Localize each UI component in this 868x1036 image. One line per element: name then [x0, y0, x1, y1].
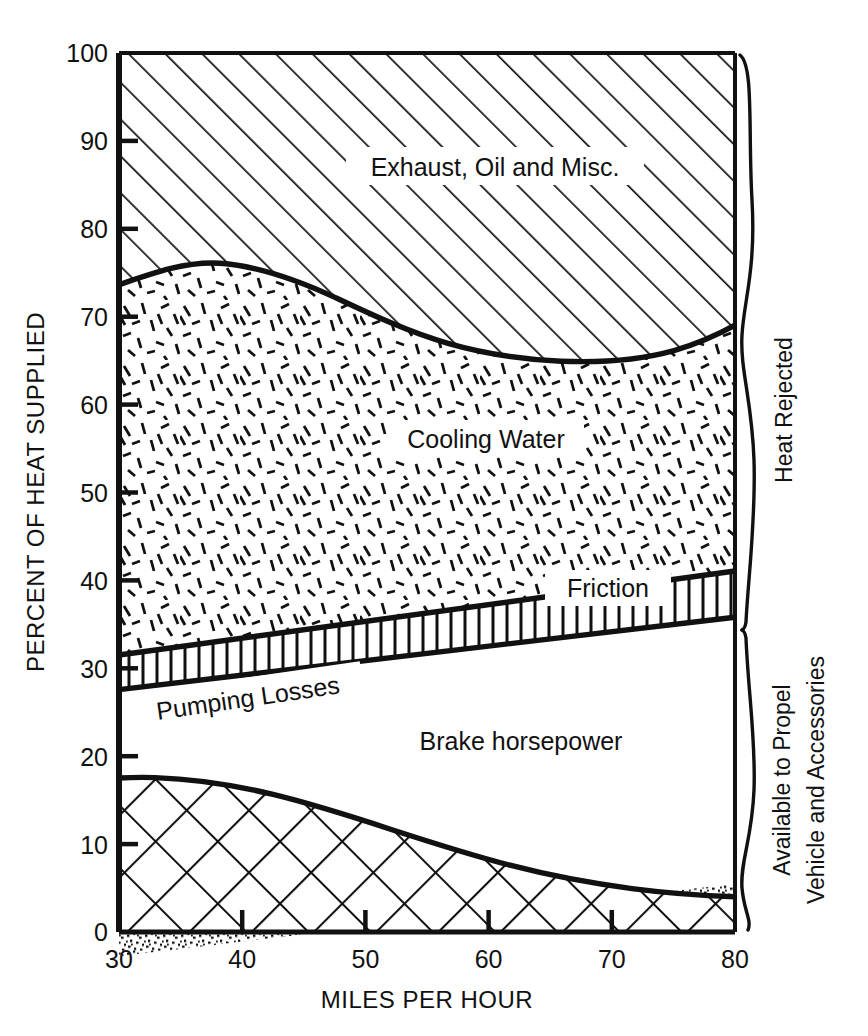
brace-heat-rejected: [740, 55, 754, 630]
y-tick-labels: 100 90 80 70 60 50 40 30 20 10 0: [66, 39, 108, 946]
y-tick-label: 80: [80, 215, 108, 243]
region-label-cooling: Cooling Water: [407, 425, 564, 453]
region-label-cooling-group: Cooling Water: [388, 421, 584, 457]
heat-balance-area-chart: 100 90 80 70 60 50 40 30 20 10 0 30 40 5…: [0, 0, 868, 1036]
y-tick-label: 100: [66, 39, 108, 67]
x-tick-label: 30: [105, 945, 133, 973]
chart-canvas: 100 90 80 70 60 50 40 30 20 10 0 30 40 5…: [0, 0, 868, 1036]
y-tick-label: 90: [80, 127, 108, 155]
x-tick-labels: 30 40 50 60 70 80: [105, 945, 749, 973]
y-tick-label: 30: [80, 655, 108, 683]
x-axis-title: MILES PER HOUR: [321, 986, 533, 1013]
x-tick-label: 70: [598, 945, 626, 973]
y-axis-title: PERCENT OF HEAT SUPPLIED: [22, 312, 49, 672]
y-tick-label: 50: [80, 479, 108, 507]
region-label-friction: Friction: [567, 574, 649, 602]
chart-page: 100 90 80 70 60 50 40 30 20 10 0 30 40 5…: [0, 0, 868, 1036]
y-tick-label: 60: [80, 391, 108, 419]
region-label-brake-group: Brake horsepower: [386, 721, 656, 759]
region-label-exhaust: Exhaust, Oil and Misc.: [371, 153, 620, 181]
region-label-exhaust-group: Exhaust, Oil and Misc.: [346, 147, 644, 185]
brace-label-heat-rejected: Heat Rejected: [771, 337, 797, 483]
region-label-brake: Brake horsepower: [420, 727, 623, 755]
brace-label-available-line1: Available to Propel: [769, 684, 795, 875]
y-tick-label: 70: [80, 303, 108, 331]
x-tick-label: 60: [475, 945, 503, 973]
brace-available: [742, 630, 755, 930]
y-tick-label: 10: [80, 831, 108, 859]
y-tick-label: 20: [80, 743, 108, 771]
x-tick-label: 40: [228, 945, 256, 973]
y-tick-label: 40: [80, 567, 108, 595]
plot-regions: [119, 53, 735, 956]
x-tick-label: 50: [351, 945, 379, 973]
region-label-friction-group: Friction: [545, 570, 671, 606]
x-tick-label: 80: [721, 945, 749, 973]
region-brake: [119, 777, 735, 932]
y-tick-label: 0: [94, 918, 108, 946]
brace-label-available-line2: Vehicle and Accessories: [803, 656, 829, 904]
